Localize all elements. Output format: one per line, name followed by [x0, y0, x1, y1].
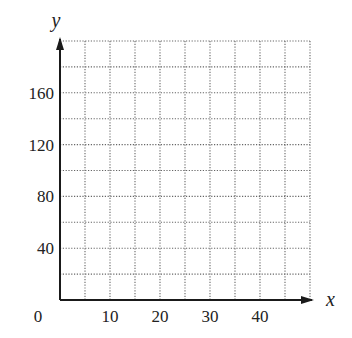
x-axis-arrow-icon	[301, 296, 314, 304]
y-tick-label: 80	[37, 187, 54, 206]
y-tick-label: 160	[29, 84, 55, 103]
blank-coordinate-grid: 0102030404080120160xy	[0, 0, 352, 338]
x-tick-label: 10	[102, 307, 119, 326]
x-tick-label: 40	[252, 307, 269, 326]
x-tick-label: 0	[34, 307, 43, 326]
x-tick-label: 30	[202, 307, 219, 326]
chart-svg: 0102030404080120160xy	[0, 0, 352, 338]
x-tick-label: 20	[152, 307, 169, 326]
y-tick-label: 40	[37, 239, 54, 258]
y-tick-label: 120	[29, 136, 55, 155]
y-axis-arrow-icon	[56, 37, 64, 50]
y-axis-label: y	[50, 9, 61, 32]
x-axis-label: x	[325, 288, 335, 310]
